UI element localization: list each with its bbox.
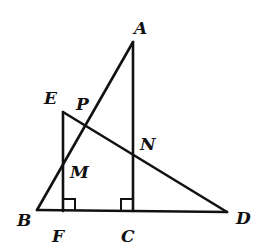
label-d: D — [235, 208, 251, 228]
right-angle-mark-c — [121, 199, 133, 211]
segment-bd — [37, 210, 227, 212]
label-p: P — [75, 94, 90, 114]
label-m: M — [69, 162, 90, 182]
label-f: F — [51, 226, 66, 246]
label-b: B — [16, 210, 31, 230]
geometry-diagram: A E P N M B F C D — [0, 0, 266, 252]
label-e: E — [43, 88, 58, 108]
label-c: C — [121, 226, 135, 246]
label-a: A — [132, 18, 147, 38]
label-n: N — [139, 134, 157, 154]
